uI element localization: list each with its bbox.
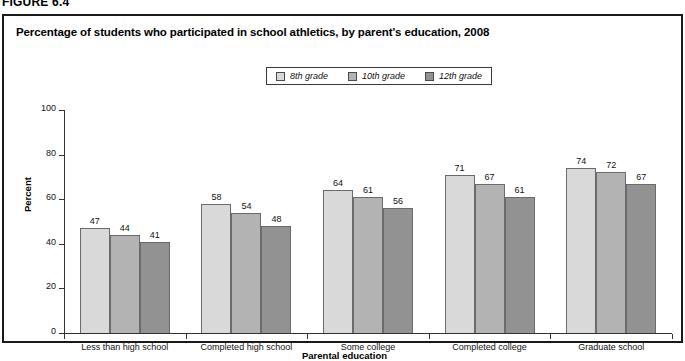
bar-slot: 61 — [353, 110, 383, 333]
bar-value-label: 74 — [566, 156, 596, 166]
legend-label: 10th grade — [362, 71, 405, 81]
bar-slot: 74 — [566, 110, 596, 333]
x-axis-category-label: Graduate school — [536, 342, 685, 352]
x-axis-tick — [186, 334, 187, 339]
bar[interactable] — [323, 190, 353, 333]
bar[interactable] — [626, 184, 656, 333]
legend-item-2[interactable]: 12th grade — [425, 71, 482, 81]
bar-group-bars: 585448 — [186, 110, 308, 333]
chart-title: Percentage of students who participated … — [16, 26, 489, 38]
bar-value-label: 56 — [383, 196, 413, 206]
x-axis-line — [64, 333, 672, 334]
bar[interactable] — [445, 175, 475, 333]
bar-group: 474441 — [64, 110, 186, 333]
x-axis-tick — [672, 334, 673, 339]
bar-slot: 72 — [596, 110, 626, 333]
bar-value-label: 64 — [323, 178, 353, 188]
y-axis-tick-label: 20 — [46, 281, 56, 291]
bar-value-label: 44 — [110, 223, 140, 233]
bar[interactable] — [596, 172, 626, 333]
bar-slot: 61 — [505, 110, 535, 333]
x-axis-tick — [550, 334, 551, 339]
bar-group-bars: 747267 — [550, 110, 672, 333]
legend-swatch-icon — [276, 72, 285, 81]
bar-group: 585448 — [186, 110, 308, 333]
legend-item-1[interactable]: 10th grade — [348, 71, 405, 81]
bar-slot: 56 — [383, 110, 413, 333]
y-axis-label: Percent — [22, 177, 33, 212]
bar-slot: 67 — [475, 110, 505, 333]
bar[interactable] — [505, 197, 535, 333]
bar-value-label: 67 — [626, 172, 656, 182]
bar[interactable] — [566, 168, 596, 333]
x-axis-tick — [64, 334, 65, 339]
bar[interactable] — [383, 208, 413, 333]
bar-value-label: 67 — [475, 172, 505, 182]
x-axis-tick — [307, 334, 308, 339]
bar-group-bars: 716761 — [429, 110, 551, 333]
bar-group: 747267 — [550, 110, 672, 333]
bar-value-label: 61 — [353, 185, 383, 195]
legend-label: 12th grade — [439, 71, 482, 81]
y-axis-tick-label: 60 — [46, 192, 56, 202]
legend-swatch-icon — [425, 72, 434, 81]
y-axis-tick-label: 80 — [46, 148, 56, 158]
bar-value-label: 47 — [80, 216, 110, 226]
bar-group: 646156 — [307, 110, 429, 333]
legend-swatch-icon — [348, 72, 357, 81]
bar[interactable] — [80, 228, 110, 333]
legend-label: 8th grade — [290, 71, 328, 81]
bar[interactable] — [261, 226, 291, 333]
bar-slot: 71 — [445, 110, 475, 333]
bar-group: 716761 — [429, 110, 551, 333]
bar[interactable] — [353, 197, 383, 333]
bar-slot: 48 — [261, 110, 291, 333]
bar-slot: 54 — [231, 110, 261, 333]
x-axis-tick — [429, 334, 430, 339]
bar-slot: 64 — [323, 110, 353, 333]
bar-value-label: 72 — [596, 160, 626, 170]
bar-group-bars: 646156 — [307, 110, 429, 333]
bar[interactable] — [201, 204, 231, 333]
bar[interactable] — [475, 184, 505, 333]
y-axis-tick-label: 0 — [51, 326, 56, 336]
bar-value-label: 54 — [231, 201, 261, 211]
chart-legend: 8th grade10th grade12th grade — [266, 67, 492, 85]
bar-value-label: 58 — [201, 192, 231, 202]
y-axis-tick-label: 100 — [41, 103, 56, 113]
bar-group-bars: 474441 — [64, 110, 186, 333]
bar[interactable] — [231, 213, 261, 333]
y-axis-tick-label: 40 — [46, 237, 56, 247]
bar[interactable] — [110, 235, 140, 333]
figure-number: FIGURE 6.4 — [2, 0, 69, 9]
bar-slot: 41 — [140, 110, 170, 333]
bar-slot: 58 — [201, 110, 231, 333]
bar-value-label: 48 — [261, 214, 291, 224]
bar[interactable] — [140, 242, 170, 333]
bar-slot: 47 — [80, 110, 110, 333]
figure-box: Percentage of students who participated … — [2, 14, 683, 343]
bar-value-label: 71 — [445, 163, 475, 173]
plot-area: 020406080100474441Less than high school5… — [64, 110, 672, 334]
bar-value-label: 41 — [140, 230, 170, 240]
bar-slot: 67 — [626, 110, 656, 333]
bar-slot: 44 — [110, 110, 140, 333]
bar-value-label: 61 — [505, 185, 535, 195]
legend-item-0[interactable]: 8th grade — [276, 71, 328, 81]
